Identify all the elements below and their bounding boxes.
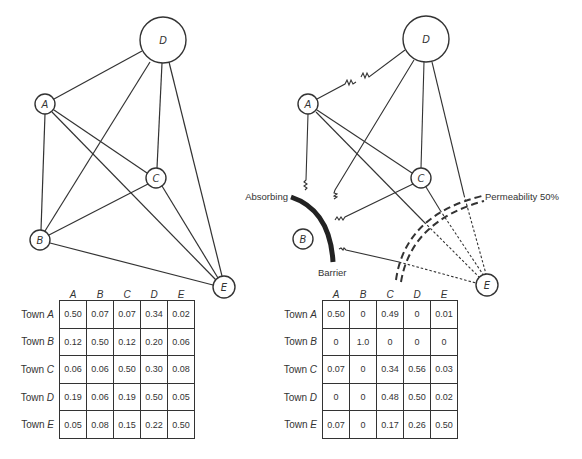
table-cell: 0.50 — [114, 356, 141, 384]
row-header: Town B — [279, 328, 323, 356]
left-interaction-table: A B C D E Town A 0.50 0.07 0.07 0.34 0.0… — [16, 288, 195, 439]
absorbing-label: Absorbing — [245, 191, 288, 202]
left-label-c: C — [153, 173, 160, 184]
table-cell: 0.06 — [87, 383, 114, 411]
col-header-b: B — [350, 288, 377, 301]
edge-b-e-dotted — [399, 262, 476, 283]
right-label-a: A — [304, 99, 312, 110]
table-cell: 0.49 — [377, 301, 404, 329]
edge-b-d — [45, 62, 150, 231]
row-header: Town E — [279, 411, 323, 439]
edge-a-e-dotted — [424, 222, 482, 280]
edge-c-d — [157, 63, 162, 168]
table-cell: 0.08 — [87, 411, 114, 439]
left-label-e: E — [221, 282, 228, 293]
table-cell: 0.50 — [87, 328, 114, 356]
table-cell: 0.08 — [168, 356, 195, 384]
left-label-d: D — [159, 35, 167, 46]
row-header: Town A — [279, 301, 323, 329]
table-row: Town A 0.50 0 0.49 0 0.01 — [279, 301, 458, 329]
table-cell: 0.50 — [141, 383, 168, 411]
table-row: Town B 0 1.0 0 0 0 — [279, 328, 458, 356]
edge-a-d — [54, 51, 142, 99]
left-edges — [41, 51, 222, 285]
col-header-c: C — [114, 288, 141, 301]
table-row: Town D 0.19 0.06 0.19 0.50 0.05 — [16, 383, 195, 411]
row-header: Town D — [16, 383, 60, 411]
table-cell: 0.50 — [431, 411, 458, 439]
edge-c-e-solid — [426, 187, 440, 210]
table-cell: 0.07 — [323, 356, 350, 384]
table-cell: 0 — [404, 301, 431, 329]
table-cell: 0.05 — [60, 411, 87, 439]
edge-e-to-barrier — [339, 248, 399, 262]
edge-a-d-right-part — [361, 50, 405, 78]
edge-a-c — [317, 110, 412, 173]
row-header: Town B — [16, 328, 60, 356]
table-cell: 0 — [350, 356, 377, 384]
table-cell: 0.22 — [141, 411, 168, 439]
table-cell: 0.20 — [141, 328, 168, 356]
table-row: Town D 0 0 0.48 0.50 0.02 — [279, 383, 458, 411]
table-cell: 0.15 — [114, 411, 141, 439]
col-header-a: A — [60, 288, 87, 301]
table-cell: 0.02 — [168, 301, 195, 329]
table-cell: 1.0 — [350, 328, 377, 356]
table-cell: 0 — [377, 328, 404, 356]
table-cell: 0.17 — [377, 411, 404, 439]
edge-a-to-barrier — [304, 114, 308, 190]
edge-a-b — [41, 114, 45, 230]
table-cell: 0.06 — [60, 356, 87, 384]
table-row: Town E 0.05 0.08 0.15 0.22 0.50 — [16, 411, 195, 439]
table-cell: 0.19 — [114, 383, 141, 411]
table-cell: 0.12 — [60, 328, 87, 356]
row-header: Town E — [16, 411, 60, 439]
table-cell: 0.50 — [404, 383, 431, 411]
table-cell: 0.07 — [323, 411, 350, 439]
edge-b-c — [49, 184, 148, 235]
absorbing-barrier — [291, 197, 333, 262]
table-cell: 0.56 — [404, 356, 431, 384]
table-cell: 0 — [431, 328, 458, 356]
network-diagrams: A B C D E A B C D E Absorbin — [0, 0, 582, 300]
edge-d-e-solid — [432, 62, 464, 195]
edge-d-e — [169, 62, 222, 276]
col-header-e: E — [431, 288, 458, 301]
right-label-c: C — [418, 173, 425, 184]
left-node-labels: A B C D E — [37, 35, 228, 293]
table-cell: 0.26 — [404, 411, 431, 439]
row-header: Town A — [16, 301, 60, 329]
table-cell: 0.19 — [60, 383, 87, 411]
table-row: Town C 0.07 0 0.34 0.56 0.03 — [279, 356, 458, 384]
table-cell: 0 — [323, 383, 350, 411]
col-header-a: A — [323, 288, 350, 301]
permeability-label: Permeability 50% — [485, 191, 559, 202]
row-header: Town C — [279, 356, 323, 384]
table-cell: 0.30 — [141, 356, 168, 384]
edge-a-d-left-part — [317, 80, 356, 99]
right-interaction-table: A B C D E Town A 0.50 0 0.49 0 0.01 Town… — [279, 288, 458, 439]
row-header: Town D — [279, 383, 323, 411]
table-cell: 0.12 — [114, 328, 141, 356]
table-cell: 0.05 — [168, 383, 195, 411]
table-cell: 0.07 — [87, 301, 114, 329]
col-header-c: C — [377, 288, 404, 301]
col-header-d: D — [404, 288, 431, 301]
table-cell: 0.34 — [377, 356, 404, 384]
row-header: Town C — [16, 356, 60, 384]
table-cell: 0.06 — [87, 356, 114, 384]
col-header-e: E — [168, 288, 195, 301]
right-label-e: E — [484, 280, 491, 291]
table-cell: 0 — [350, 301, 377, 329]
table-cell: 0.34 — [141, 301, 168, 329]
table-cell: 0.06 — [168, 328, 195, 356]
left-label-b: B — [37, 235, 44, 246]
table-row: Town C 0.06 0.06 0.50 0.30 0.08 — [16, 356, 195, 384]
edge-c-to-barrier — [335, 184, 413, 220]
table-row: Town E 0.07 0 0.17 0.26 0.50 — [279, 411, 458, 439]
table-cell: 0.01 — [431, 301, 458, 329]
table-cell: 0 — [323, 328, 350, 356]
left-label-a: A — [41, 99, 49, 110]
permeable-barrier-inner — [401, 201, 484, 282]
edge-a-e — [52, 112, 216, 280]
